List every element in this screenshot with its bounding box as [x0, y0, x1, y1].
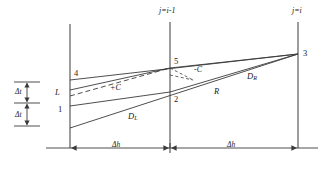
delta-t-upper-arrowhead-up: [24, 83, 29, 88]
node-label-2: 2: [174, 95, 178, 104]
delta-h-right-arrowhead-start: [171, 145, 177, 151]
characteristic-label-minus-c: -C: [194, 66, 202, 74]
axis-label-middle: j=i-1: [159, 7, 176, 15]
axis-label-right: j=i: [292, 7, 302, 15]
node-label-4: 4: [74, 69, 78, 78]
node-label-R: R: [214, 87, 219, 96]
curve-label-d-left: DL: [128, 112, 137, 121]
node-label-1: 1: [58, 105, 62, 114]
delta-t-lower-arrowhead-down: [24, 120, 29, 125]
characteristic-label-plus-c: +C: [110, 84, 121, 92]
line-5-to-3: [170, 54, 298, 68]
delta-t-label-upper: Δt: [15, 88, 22, 96]
characteristics-diagram: j=i-1 j=i 4 L 1 5 2 R 3 DL DR +C -C Δt Δ…: [0, 0, 329, 173]
curve-label-d-left-subscript: L: [134, 115, 137, 121]
curve-label-d-right-subscript: R: [253, 75, 257, 81]
delta-h-label-left: Δh: [112, 141, 120, 149]
delta-t-upper-arrowhead-down: [24, 97, 29, 102]
delta-h-label-right: Δh: [227, 141, 235, 149]
node-label-5: 5: [174, 57, 178, 66]
delta-h-left-arrowhead-start: [71, 145, 77, 151]
node-label-3: 3: [303, 49, 307, 58]
line-bottom-to-3: [70, 54, 298, 128]
delta-t-lower-arrowhead-up: [24, 104, 29, 109]
line-1-to-2: [70, 92, 170, 106]
delta-h-left-arrowhead-end: [163, 145, 169, 151]
delta-t-label-lower: Δt: [15, 111, 22, 119]
diagram-canvas: [0, 0, 329, 173]
curve-label-d-right: DR: [247, 72, 257, 81]
node-label-L: L: [55, 88, 60, 97]
dashed-minus-c-leg-a: [170, 68, 193, 80]
dashed-minus-c-leg-b: [170, 75, 193, 80]
delta-h-right-arrowhead-end: [291, 145, 297, 151]
line-2-to-3: [170, 54, 298, 92]
